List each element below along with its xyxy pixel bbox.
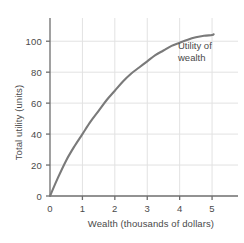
utility-of-wealth-chart: 020406080100 012345 Total utility (units… [0,0,244,243]
y-tick-label: 0 [8,191,42,202]
series-annotation: Utility of wealth [178,40,212,63]
x-tick-label: 0 [47,203,52,214]
x-tick-label: 3 [144,203,149,214]
x-axis-label: Wealth (thousands of dollars) [58,218,244,229]
y-axis-label: Total utility (units) [13,58,24,188]
x-tick-label: 2 [112,203,117,214]
y-tick-label: 100 [8,36,42,47]
tick-marks [46,41,212,200]
series-annotation-line1: Utility of [178,40,212,52]
series-annotation-line2: wealth [178,52,212,64]
x-tick-label: 4 [177,203,182,214]
x-tick-label: 5 [209,203,214,214]
x-tick-label: 1 [80,203,85,214]
